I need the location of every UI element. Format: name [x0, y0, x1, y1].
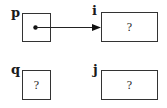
box-j: ?: [101, 70, 158, 100]
label-j: j: [93, 63, 98, 76]
label-p: p: [11, 6, 20, 19]
label-q: q: [11, 63, 20, 76]
box-i: ?: [101, 12, 158, 42]
box-p: [22, 13, 51, 42]
value-q: ?: [34, 78, 39, 93]
arrowhead-icon: [92, 24, 101, 31]
box-q: ?: [22, 70, 51, 100]
value-j: ?: [127, 78, 132, 93]
value-i: ?: [127, 20, 132, 35]
label-i: i: [92, 4, 97, 17]
